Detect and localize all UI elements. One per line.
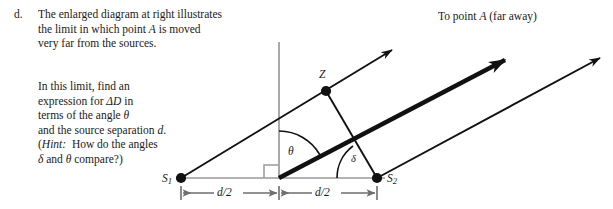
label-source1: S1 [162, 172, 172, 186]
ray-from-source1 [181, 50, 392, 178]
worksheet-page: d. The enlarged diagram at right illustr… [0, 0, 613, 209]
geometry-diagram: To point A (far away) S1 S2 Z θ δ d/2 d/… [0, 0, 613, 209]
angle-theta-arc [279, 131, 320, 155]
label-source1-subscript: 1 [168, 176, 172, 186]
label-source2: S2 [387, 172, 397, 186]
point-source2-dot [372, 173, 382, 183]
ray-from-midpoint-thick [279, 60, 505, 178]
right-angle-marker [264, 165, 278, 178]
point-source1-dot [176, 173, 186, 183]
label-dimension-left: d/2 [217, 186, 232, 198]
to-point-a-caption: To point A (far away) [438, 10, 537, 22]
label-point-z: Z [319, 68, 325, 80]
label-dimension-right: d/2 [315, 186, 330, 198]
label-source2-subscript: 2 [393, 176, 397, 186]
ray-from-source2 [377, 58, 600, 178]
perpendicular-z-to-source2 [326, 91, 377, 178]
label-angle-theta: θ [288, 145, 294, 157]
label-angle-delta: δ [351, 153, 356, 164]
point-z-dot [321, 86, 331, 96]
